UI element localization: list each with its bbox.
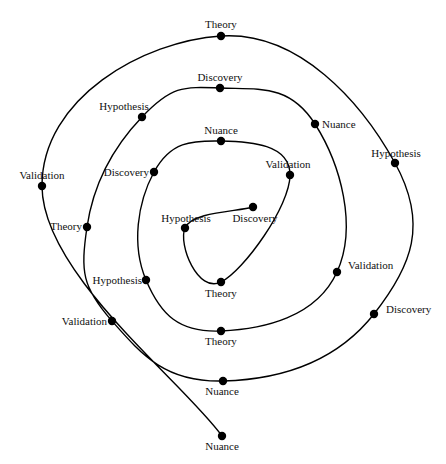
node-discovery-dot [370, 310, 378, 318]
node-nuance-dot [218, 432, 226, 440]
node-validation-dot [333, 268, 341, 276]
node-discovery-dot [249, 203, 257, 211]
node-label: Validation [62, 315, 108, 327]
node-discovery-dot [216, 84, 224, 92]
node-theory-dot [83, 223, 91, 231]
node-label: Nuance [322, 118, 356, 130]
node-label: Discovery [104, 166, 150, 178]
node-validation-dot [108, 317, 116, 325]
node-label: Theory [205, 287, 237, 299]
node-label: Discovery [386, 303, 432, 315]
node-hypothesis-dot [142, 276, 150, 284]
node-label: Hypothesis [371, 147, 421, 159]
node-theory-dot [217, 278, 225, 286]
node-label: Hypothesis [99, 100, 149, 112]
node-label: Nuance [204, 124, 238, 136]
node-theory-dot [217, 327, 225, 335]
node-label: Discovery [197, 71, 243, 83]
spiral-diagram: DiscoveryHypothesisTheoryValidationNuanc… [0, 0, 446, 464]
node-validation-dot [38, 182, 46, 190]
node-label: Validation [348, 259, 394, 271]
node-hypothesis-dot [138, 113, 146, 121]
node-label: Validation [19, 169, 65, 181]
node-hypothesis-dot [391, 159, 399, 167]
node-discovery-dot [150, 168, 158, 176]
node-validation-dot [286, 171, 294, 179]
node-label: Hypothesis [93, 274, 143, 286]
node-label: Nuance [205, 385, 239, 397]
node-label: Hypothesis [161, 212, 211, 224]
node-theory-dot [217, 32, 225, 40]
node-nuance-dot [311, 120, 319, 128]
node-label: Theory [205, 18, 237, 30]
spiral-line [42, 36, 413, 436]
node-nuance-dot [219, 377, 227, 385]
node-label: Validation [265, 158, 311, 170]
node-label: Theory [205, 335, 237, 347]
label-group: DiscoveryHypothesisTheoryValidationNuanc… [19, 18, 431, 452]
node-hypothesis-dot [181, 224, 189, 232]
node-label: Theory [50, 220, 82, 232]
node-nuance-dot [217, 137, 225, 145]
node-label: Nuance [205, 440, 239, 452]
node-label: Discovery [232, 212, 278, 224]
